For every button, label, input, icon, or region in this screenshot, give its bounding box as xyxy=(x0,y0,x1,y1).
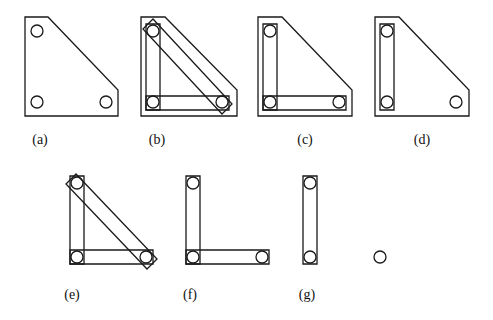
bolt-hole-circle xyxy=(187,251,199,263)
bolt-hole-circle xyxy=(264,96,276,108)
bolt-hole-circle xyxy=(187,177,199,189)
bolt-hole-circle xyxy=(31,25,43,37)
diagram-svg xyxy=(0,0,493,320)
panel-label-c: (c) xyxy=(297,132,313,148)
bolt-hole-circle xyxy=(256,251,268,263)
panel-label-d: (d) xyxy=(414,132,430,148)
panel-label-f: (f) xyxy=(183,287,197,303)
panel-b xyxy=(141,17,237,116)
bolt-hole-circle xyxy=(264,25,276,37)
bolt-hole-circle xyxy=(71,251,83,263)
bolt-hole-circle xyxy=(147,96,159,108)
bolt-hole-circle xyxy=(304,177,316,189)
panel-e xyxy=(66,174,157,269)
figure-canvas: (a)(b)(c)(d)(e)(f)(g) xyxy=(0,0,493,320)
bolt-hole-circle xyxy=(450,96,462,108)
panel-g xyxy=(303,176,317,264)
bolt-hole-circle xyxy=(31,96,43,108)
bolt-hole-circle xyxy=(381,25,393,37)
bolt-hole-circle xyxy=(381,96,393,108)
panel-label-e: (e) xyxy=(64,287,80,303)
plate-outline xyxy=(258,17,352,116)
bolt-hole-circle xyxy=(216,96,228,108)
bolt-hole-circle xyxy=(71,177,83,189)
plate-outline xyxy=(141,17,237,116)
bolt-group-band xyxy=(143,19,232,114)
bolt-hole-circle xyxy=(140,251,152,263)
panel-label-g: (g) xyxy=(299,287,315,303)
panel-c xyxy=(258,17,352,116)
bolt-hole-circle xyxy=(333,96,345,108)
bolt-hole-circle xyxy=(374,251,386,263)
panel-label-a: (a) xyxy=(32,132,48,148)
bolt-hole-circle xyxy=(100,96,112,108)
panel-a xyxy=(25,17,118,116)
panel-d xyxy=(375,17,469,116)
plate-outline xyxy=(25,17,118,116)
plate-outline xyxy=(375,17,469,116)
panel-g2 xyxy=(374,251,386,263)
panel-label-b: (b) xyxy=(149,132,165,148)
panel-f xyxy=(186,176,269,264)
bolt-hole-circle xyxy=(304,251,316,263)
bolt-hole-circle xyxy=(147,25,159,37)
